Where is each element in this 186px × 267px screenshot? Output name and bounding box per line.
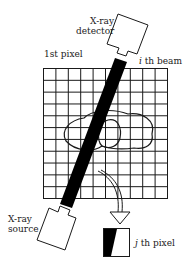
first-pixel-label: 1st pixel xyxy=(44,49,83,59)
x-ray-source xyxy=(37,206,76,250)
detector-label: X-ray detector xyxy=(86,16,114,36)
beam-label: i th beam xyxy=(139,56,182,66)
detector-label-line1: X-ray xyxy=(86,16,114,26)
source-label-line2: source xyxy=(8,224,39,234)
pixel-suffix: th pixel xyxy=(138,238,175,248)
pixel-label: j th pixel xyxy=(135,238,175,248)
first-pixel-text: 1st pixel xyxy=(44,49,83,59)
arrow-icon xyxy=(98,170,130,224)
beam-suffix: th beam xyxy=(142,56,182,66)
source-label: X-ray source xyxy=(8,214,39,234)
jth-pixel-inset xyxy=(104,229,130,257)
source-label-line1: X-ray xyxy=(8,214,39,224)
detector-label-line2: detector xyxy=(76,26,114,36)
object-outline xyxy=(64,111,152,151)
